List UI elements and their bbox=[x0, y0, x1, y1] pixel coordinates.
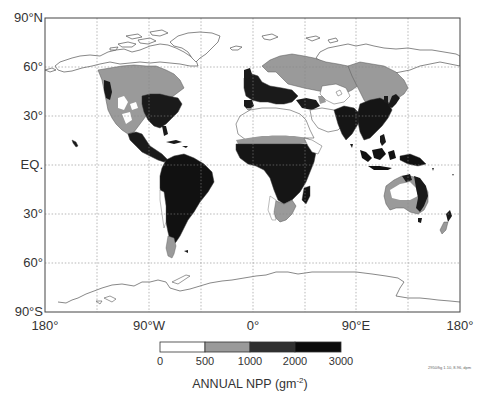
legend-bin-0-500 bbox=[160, 342, 205, 352]
legend-title-main: ANNUAL NPP (gm bbox=[192, 377, 296, 391]
npp-world-map bbox=[0, 0, 489, 407]
legend-title: ANNUAL NPP (gm-2) bbox=[192, 376, 308, 391]
legend-colorbar bbox=[160, 342, 341, 352]
legend-bin-2000-3000 bbox=[295, 342, 341, 352]
legend-tick-1000: 1000 bbox=[238, 355, 262, 367]
legend-tick-3000: 3000 bbox=[329, 355, 353, 367]
legend-title-end: ) bbox=[304, 377, 308, 391]
legend-tick-500: 500 bbox=[196, 355, 214, 367]
legend-bin-500-1000 bbox=[205, 342, 250, 352]
legend-tick-2000: 2000 bbox=[283, 355, 307, 367]
figure-credit: 2950/fig 1.10, 8.96, dpm bbox=[428, 365, 471, 370]
legend-tick-0: 0 bbox=[157, 355, 163, 367]
legend-bin-1000-2000 bbox=[250, 342, 295, 352]
